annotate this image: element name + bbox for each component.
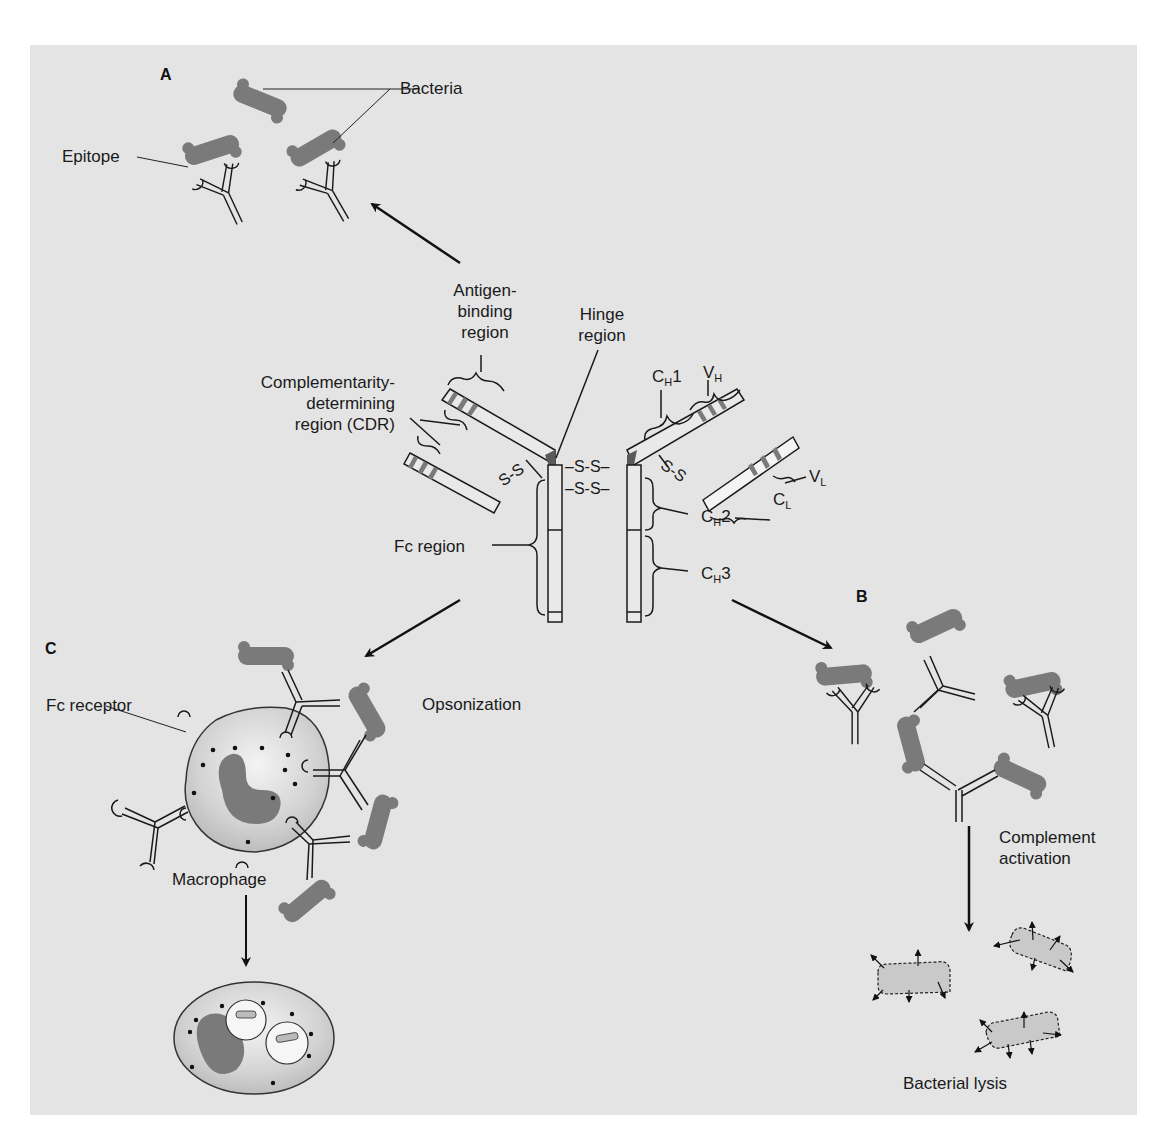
- label-cdr: Complementarity- determining region (CDR…: [200, 372, 395, 435]
- label-ch2: CH2: [701, 506, 731, 529]
- label-cl: CL: [773, 489, 791, 512]
- label-fc-region: Fc region: [394, 536, 465, 557]
- label-macrophage: Macrophage: [172, 869, 267, 890]
- label-complement-activation: Complement activation: [999, 827, 1095, 869]
- label-ch1: CH1: [652, 366, 682, 389]
- label-vl: VL: [809, 466, 826, 489]
- label-bacterial-lysis: Bacterial lysis: [903, 1073, 1007, 1094]
- label-antigen-binding-region: Antigen- binding region: [430, 280, 540, 343]
- panel-label-c: C: [45, 640, 57, 658]
- disulfide-hinge-2: –S-S–: [565, 480, 609, 498]
- label-bacteria: Bacteria: [400, 78, 462, 99]
- panel-label-b: B: [856, 588, 868, 606]
- panel-a-illustration: [137, 77, 420, 236]
- panel-c-illustration: [106, 641, 400, 1094]
- disulfide-hinge-1: –S-S–: [565, 458, 609, 476]
- label-vh: VH: [703, 362, 722, 385]
- label-ch3: CH3: [701, 563, 731, 586]
- panel-label-a: A: [160, 66, 172, 84]
- label-hinge-region: Hinge region: [562, 304, 642, 346]
- label-epitope: Epitope: [62, 146, 120, 167]
- label-opsonization: Opsonization: [422, 694, 521, 715]
- antibody-function-diagram: [0, 0, 1162, 1139]
- label-fc-receptor: Fc receptor: [46, 695, 132, 716]
